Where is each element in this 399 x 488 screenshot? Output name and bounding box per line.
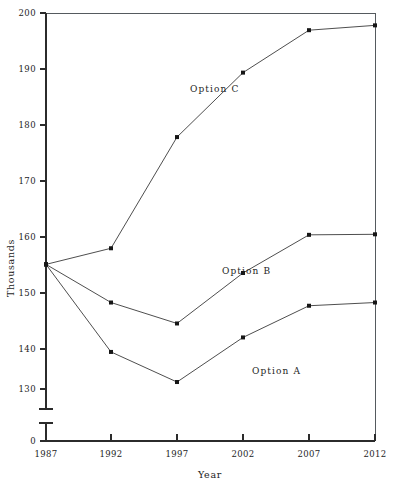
- data-point: [175, 321, 179, 325]
- series-option-a: [44, 262, 377, 384]
- series-option-b: [44, 232, 377, 325]
- x-tick-marks: [46, 434, 375, 441]
- x-tick-label-1997: 1997: [165, 449, 188, 459]
- data-point: [373, 23, 377, 27]
- x-tick-label-2012: 2012: [363, 449, 386, 459]
- y-tick-label-200: 200: [19, 8, 36, 18]
- x-tick-label-1987: 1987: [34, 449, 57, 459]
- y-tick-label-130: 130: [19, 384, 36, 394]
- series-annotation-option-b: Option B: [222, 266, 271, 276]
- series-line-2: [46, 234, 375, 323]
- data-point: [307, 233, 311, 237]
- data-point: [109, 350, 113, 354]
- series-line-3: [46, 25, 375, 264]
- chart-container: 200 190 180 170 160 150 140 130 0 1987 1…: [0, 0, 399, 488]
- series-annotation-option-c: Option C: [190, 84, 239, 94]
- series-line-1: [46, 264, 375, 382]
- y-tick-label-180: 180: [19, 120, 36, 130]
- x-tick-label-2002: 2002: [231, 449, 254, 459]
- x-axis-title: Year: [197, 469, 222, 480]
- data-point: [241, 335, 245, 339]
- x-tick-label-1992: 1992: [99, 449, 122, 459]
- data-point: [175, 380, 179, 384]
- series-layer: [44, 23, 377, 384]
- data-point: [241, 71, 245, 75]
- y-tick-label-0: 0: [30, 436, 36, 446]
- series-annotation-option-a: Option A: [252, 366, 301, 376]
- data-point: [373, 232, 377, 236]
- x-tick-label-2007: 2007: [297, 449, 320, 459]
- y-tick-label-170: 170: [19, 176, 36, 186]
- line-chart: 200 190 180 170 160 150 140 130 0 1987 1…: [0, 0, 399, 488]
- y-tick-label-190: 190: [19, 64, 36, 74]
- y-tick-label-160: 160: [19, 232, 36, 242]
- data-point: [44, 262, 48, 266]
- y-tick-label-150: 150: [19, 288, 36, 298]
- data-point: [373, 301, 377, 305]
- series-option-c: [44, 23, 377, 266]
- data-point: [109, 246, 113, 250]
- data-point: [109, 301, 113, 305]
- data-point: [307, 304, 311, 308]
- data-point: [307, 28, 311, 32]
- y-tick-marks: [40, 13, 46, 441]
- y-axis-title: Thousands: [5, 239, 16, 297]
- data-point: [175, 135, 179, 139]
- y-tick-label-140: 140: [19, 344, 36, 354]
